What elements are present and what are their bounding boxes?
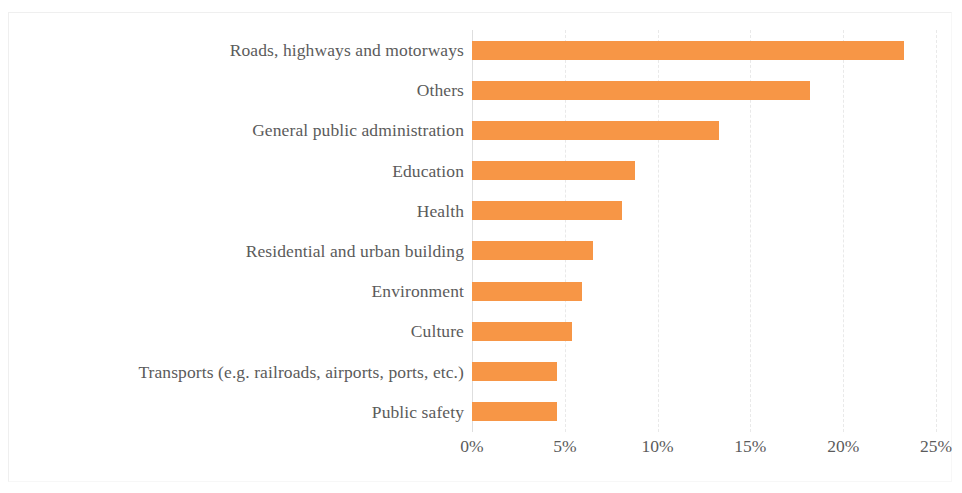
x-tick-label: 15% — [734, 436, 766, 457]
bar-row: Health — [0, 191, 962, 231]
bar-row: Others — [0, 70, 962, 110]
bar-chart-figure: Roads, highways and motorwaysOthersGener… — [0, 0, 962, 493]
category-label: Health — [417, 191, 464, 231]
bar-row: General public administration — [0, 110, 962, 150]
bar-row: Environment — [0, 271, 962, 311]
bar-row: Education — [0, 151, 962, 191]
bar — [472, 121, 719, 140]
x-tick-label: 10% — [642, 436, 674, 457]
category-label: Public safety — [372, 392, 464, 432]
bar-row: Residential and urban building — [0, 231, 962, 271]
bar — [472, 81, 810, 100]
category-label: Transports (e.g. railroads, airports, po… — [138, 352, 464, 392]
category-label: Roads, highways and motorways — [230, 30, 464, 70]
bar-rows-container: Roads, highways and motorwaysOthersGener… — [0, 30, 962, 432]
bar — [472, 282, 582, 301]
category-label: Residential and urban building — [246, 231, 464, 271]
bar-row: Culture — [0, 311, 962, 351]
bar-row: Public safety — [0, 392, 962, 432]
x-tick-label: 5% — [553, 436, 576, 457]
bar — [472, 201, 622, 220]
category-label: Education — [392, 151, 464, 191]
category-label: Others — [417, 70, 464, 110]
category-label: Culture — [411, 311, 464, 351]
category-label: General public administration — [252, 110, 464, 150]
bar — [472, 362, 557, 381]
x-axis-tick-labels: 0%5%10%15%20%25% — [0, 436, 962, 466]
bar — [472, 161, 635, 180]
bar-row: Transports (e.g. railroads, airports, po… — [0, 352, 962, 392]
category-label: Environment — [372, 271, 464, 311]
bar — [472, 241, 593, 260]
bar-row: Roads, highways and motorways — [0, 30, 962, 70]
bar — [472, 322, 572, 341]
x-tick-label: 20% — [827, 436, 859, 457]
x-tick-label: 0% — [460, 436, 483, 457]
bar — [472, 41, 904, 60]
x-tick-label: 25% — [920, 436, 952, 457]
bar — [472, 402, 557, 421]
